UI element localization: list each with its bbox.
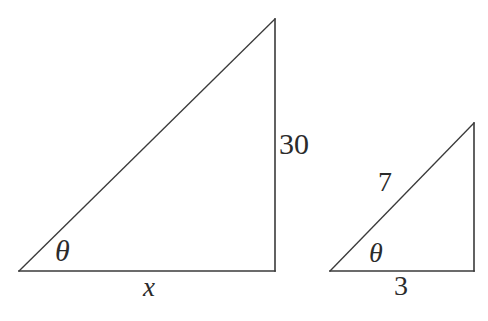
large-triangle-base-label: x <box>143 274 155 301</box>
triangles-figure: 30 x θ 7 3 θ <box>0 0 488 321</box>
figure-background <box>0 0 488 321</box>
small-triangle-hypotenuse-label: 7 <box>378 168 392 196</box>
large-triangle-angle-label: θ <box>55 236 70 266</box>
small-triangle-angle-label: θ <box>369 239 383 267</box>
small-triangle-base-label: 3 <box>394 272 408 300</box>
large-triangle-vertical-label: 30 <box>279 129 309 159</box>
triangles-canvas <box>0 0 488 321</box>
